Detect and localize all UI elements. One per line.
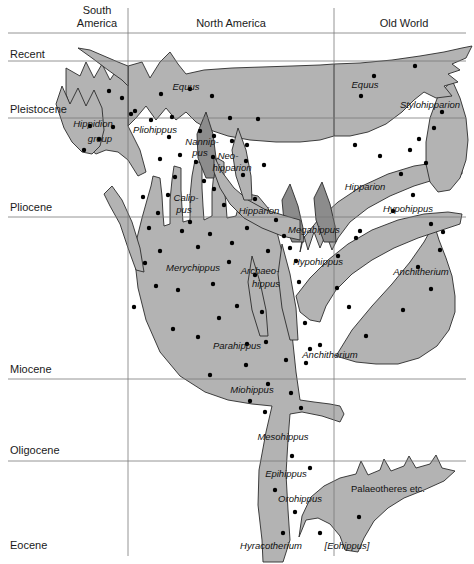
- fossil-occurrence-dot: [263, 410, 267, 414]
- fossil-occurrence-dot: [253, 197, 257, 201]
- taxon-label-orohippus: Orohippus: [278, 493, 322, 504]
- horse-evolution-chart: South America North America Old World Re…: [0, 0, 474, 564]
- fossil-occurrence-dot: [408, 148, 412, 152]
- taxon-label-calippus-l1: Calip-: [174, 192, 199, 203]
- fossil-occurrence-dot: [441, 230, 445, 234]
- fossil-occurrence-dot: [289, 391, 293, 395]
- fossil-occurrence-dot: [318, 531, 322, 535]
- fossil-occurrence-dot: [264, 340, 268, 344]
- fossil-occurrence-dot: [248, 399, 252, 403]
- taxon-label-hipparion-ow: Hipparion: [345, 181, 386, 192]
- taxon-label-miohippus: Miohippus: [230, 384, 274, 395]
- taxon-label-megahippus: Megahippus: [288, 224, 340, 235]
- taxon-label-nannippus-l1: Nannip-: [185, 136, 218, 147]
- epoch-label-miocene: Miocene: [10, 363, 52, 375]
- fossil-occurrence-dot: [178, 153, 182, 157]
- taxon-label-nannippus-l2: pus: [191, 147, 208, 158]
- column-header-north-america: North America: [196, 17, 267, 29]
- fossil-occurrence-dot: [158, 157, 162, 161]
- taxon-label-merychippus: Merychippus: [166, 262, 220, 273]
- fossil-occurrence-dot: [262, 163, 266, 167]
- column-header-old-world: Old World: [380, 17, 429, 29]
- fossil-occurrence-dot: [256, 117, 260, 121]
- fossil-occurrence-dot: [196, 335, 200, 339]
- taxon-label-anchitherium-ow: Anchitherium: [392, 266, 449, 277]
- fossil-occurrence-dot: [378, 154, 382, 158]
- fossil-occurrence-dot: [228, 116, 232, 120]
- taxon-label-hypohippus-na: Hypohippus: [293, 256, 343, 267]
- fossil-occurrence-dot: [282, 234, 286, 238]
- fossil-occurrence-dot: [429, 222, 433, 226]
- epoch-label-recent: Recent: [10, 48, 45, 60]
- fossil-occurrence-dot: [230, 139, 234, 143]
- fossil-occurrence-dot: [297, 280, 301, 284]
- fossil-occurrence-dot: [335, 286, 339, 290]
- fossil-occurrence-dot: [180, 229, 184, 233]
- epoch-labels-group: Recent Pleistocene Pliocene Miocene Olig…: [10, 48, 67, 551]
- fossil-occurrence-dot: [217, 316, 221, 320]
- fossil-occurrence-dot: [244, 363, 248, 367]
- fossil-occurrence-dot: [208, 232, 212, 236]
- fossil-occurrence-dot: [147, 226, 151, 230]
- fossil-occurrence-dot: [188, 220, 192, 224]
- fossil-occurrence-dot: [288, 246, 292, 250]
- fossil-occurrence-dot: [260, 310, 264, 314]
- phylogeny-diagram: South America North America Old World Re…: [0, 0, 474, 564]
- fossil-occurrence-dot: [440, 110, 444, 114]
- fossil-occurrence-dot: [158, 249, 162, 253]
- fossil-occurrence-dot: [245, 226, 249, 230]
- clade-palaeotheres: [299, 455, 455, 552]
- fossil-occurrence-dot: [274, 218, 278, 222]
- taxon-label-mesohippus: Mesohippus: [257, 431, 308, 442]
- taxon-label-hipparion-na: Hipparion: [239, 205, 280, 216]
- fossil-occurrence-dot: [399, 172, 403, 176]
- epoch-label-eocene: Eocene: [10, 539, 47, 551]
- fossil-occurrence-dot: [432, 126, 436, 130]
- taxon-label-archaeohippus-l2: hippus: [252, 278, 280, 289]
- fossil-occurrence-dot: [149, 118, 153, 122]
- fossil-occurrence-dot: [372, 74, 376, 78]
- taxon-label-hyracotherium: Hyracotherium: [240, 540, 302, 551]
- fossil-occurrence-dot: [133, 109, 137, 113]
- taxon-label-eohippus-bracket: [Eohippus]: [324, 540, 370, 551]
- taxon-label-parahippus: Parahippus: [213, 340, 261, 351]
- taxon-label-pliohippus: Pliohippus: [133, 124, 177, 135]
- fossil-occurrence-dot: [245, 143, 249, 147]
- taxon-label-hypohippus-ow: Hypohippus: [383, 203, 433, 214]
- fossil-occurrence-dot: [211, 155, 215, 159]
- taxon-label-archaeohippus-l1: Archaeo-: [240, 265, 280, 276]
- fossil-occurrence-dot: [357, 515, 361, 519]
- fossil-occurrence-dot: [235, 304, 239, 308]
- taxon-label-epihippus: Epihippus: [265, 468, 307, 479]
- fossil-occurrence-dot: [227, 260, 231, 264]
- fossil-occurrence-dot: [364, 334, 368, 338]
- column-header-south-america-line1: South: [83, 4, 112, 16]
- fossil-occurrence-dot: [208, 373, 212, 377]
- fossil-occurrence-dot: [359, 94, 363, 98]
- fossil-occurrence-dot: [132, 305, 136, 309]
- fossil-occurrence-dot: [211, 282, 215, 286]
- fossil-occurrence-dot: [141, 195, 145, 199]
- clade-merychippus-left-arm: [104, 186, 144, 272]
- fossil-occurrence-dot: [230, 241, 234, 245]
- fossil-occurrence-dot: [354, 236, 358, 240]
- fossil-occurrence-dot: [299, 406, 303, 410]
- fossil-occurrence-dot: [273, 488, 277, 492]
- fossil-occurrence-dot: [318, 343, 322, 347]
- fossil-occurrence-dot: [411, 193, 415, 197]
- fossil-occurrence-dot: [173, 175, 177, 179]
- fossil-occurrence-dot: [290, 454, 294, 458]
- fossil-occurrence-dot: [170, 115, 174, 119]
- fossil-occurrence-dot: [176, 288, 180, 292]
- fossil-occurrence-dot: [212, 187, 216, 191]
- epoch-label-oligocene: Oligocene: [10, 444, 60, 456]
- taxon-label-anchitherium-na: Anchitherium: [301, 349, 358, 360]
- fossil-occurrence-dot: [154, 284, 158, 288]
- epoch-label-pleistocene: Pleistocene: [10, 103, 67, 115]
- fossil-occurrence-dot: [401, 308, 405, 312]
- fossil-occurrence-dot: [171, 327, 175, 331]
- fossil-occurrence-dot: [358, 229, 362, 233]
- taxon-label-neohipparion-l1: Neo-: [218, 150, 239, 161]
- fossil-occurrence-dot: [281, 531, 285, 535]
- fossil-occurrence-dot: [107, 89, 111, 93]
